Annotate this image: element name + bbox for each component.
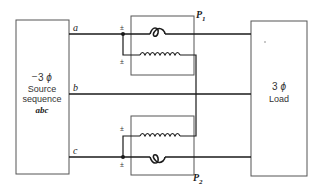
load-phase: 3 ϕ [272,81,286,92]
line-a [69,28,251,36]
line-c [69,155,251,163]
source-sequence-value: abc [36,105,49,115]
source-label: Source [28,84,57,94]
wattmeter-p2-box [131,116,194,175]
polarity-mark-p2-voltage: ± [120,125,124,132]
wattmeter-p2-label: P2 [193,172,203,186]
line-label-c: c [73,145,78,156]
source-sequence-label: sequence [22,94,61,104]
wattmeter-p1-box [131,16,194,75]
polarity-mark-p1-current: ± [120,24,124,31]
polarity-mark-p1-voltage: ± [120,58,124,65]
load-dot [264,41,265,42]
wattmeter-p1-label: P1 [196,9,206,23]
voltage-coil-p2 [123,94,196,157]
load-label: Load [269,94,289,104]
source-phase: 3 ϕ [38,72,52,83]
voltage-coil-p1 [123,34,196,94]
line-label-b: b [73,82,78,93]
source-marker: – [32,71,37,81]
polarity-mark-p2-current: ± [120,161,124,168]
junction-node-c [121,155,125,159]
line-label-a: a [73,22,78,33]
circuit-diagram: ± ± ± ± a b c P1 P2 – 3 ϕ Source sequenc… [0,0,320,192]
